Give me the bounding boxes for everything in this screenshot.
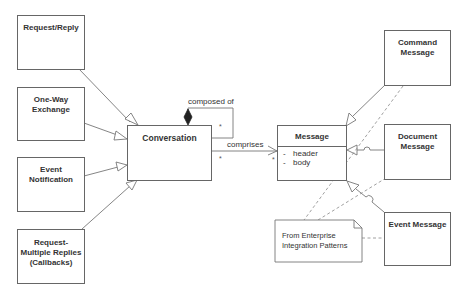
class-event-message[interactable]: Event Message [384,212,451,266]
association-arrowhead [268,146,277,155]
generalization-request-multiple [82,186,130,229]
composition-diamond-icon [184,109,192,125]
generalization-document-message [356,147,384,150]
class-one-way-exchange[interactable]: One-Way Exchange [17,87,85,141]
attribute-body: - body [283,158,318,167]
class-message[interactable]: Message - header - body [277,125,347,181]
attribute-list: - header - body [283,149,318,167]
generalization-one-way [84,123,120,136]
attribute-header: - header [283,149,318,158]
association-source-multiplicity: * [219,155,222,162]
generalization-event-message [356,189,384,212]
class-label: Conversation [128,133,211,143]
generalization-request-reply [79,69,130,122]
class-label: Request/Reply [18,23,84,33]
class-label-line1: Document [385,132,450,142]
arrowhead-request-reply [125,113,138,125]
composition-multiplicity: * [219,123,222,130]
note-line2: Integration Patterns [282,241,347,251]
note: From Enterprise Integration Patterns [275,220,362,262]
attribute-name: header [293,149,318,158]
generalization-event-notification [84,167,118,176]
class-label-line2: Message [385,142,450,152]
class-divider [278,146,346,147]
class-label-line1: Command [385,38,450,48]
association-target-multiplicity: * [272,156,275,163]
visibility-marker: - [283,149,293,158]
class-conversation[interactable]: Conversation [127,125,212,181]
class-label: Message [278,132,346,141]
class-label: Event Message [385,220,450,230]
arrowhead-one-way [114,131,127,140]
arrowhead-event-notification [116,162,127,171]
class-label-line2: Notification [18,175,84,185]
class-label-line1: One-Way [18,95,84,105]
class-label-line2: Multiple Replies [18,248,84,258]
class-label-line3: (Callbacks) [18,258,84,268]
association-label: comprises [227,140,263,149]
visibility-marker: - [283,158,293,167]
composition-label: composed of [188,97,234,106]
class-label-line2: Message [385,48,450,58]
note-line1: From Enterprise [282,231,347,241]
note-text: From Enterprise Integration Patterns [282,231,347,251]
class-request-reply[interactable]: Request/Reply [17,15,85,70]
attribute-name: body [293,158,310,167]
generalization-command-message [352,84,386,117]
class-document-message[interactable]: Document Message [384,124,451,180]
class-label-line1: Request- [18,238,84,248]
class-command-message[interactable]: Command Message [384,30,451,86]
class-event-notification[interactable]: Event Notification [17,157,85,212]
class-label-line2: Exchange [18,105,84,115]
class-label-line1: Event [18,165,84,175]
class-request-multiple-replies[interactable]: Request- Multiple Replies (Callbacks) [17,229,85,284]
